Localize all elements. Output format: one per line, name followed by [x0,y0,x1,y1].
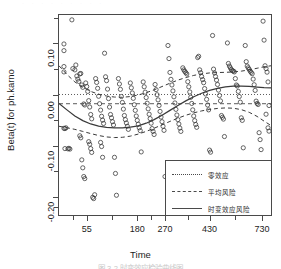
data-point [141,80,145,84]
x-tick-label: 270 [145,224,185,234]
data-point [80,158,84,162]
data-point [90,117,94,121]
data-point [225,41,229,45]
data-point [215,82,219,86]
data-point [131,96,135,100]
data-point [70,18,74,22]
data-point [253,88,257,92]
top-bleed-text: · · · · · · · · · [22,0,172,7]
x-tick [210,216,211,221]
legend-label-2: 时变效应风险 [208,204,250,214]
data-point [256,102,260,106]
data-point [240,118,244,122]
data-point [128,81,132,85]
data-point [146,107,150,111]
data-point [74,63,78,67]
data-point [87,140,91,144]
data-point [176,118,180,122]
data-point [62,64,66,68]
data-point [192,114,196,118]
data-point [236,89,240,93]
data-point [187,85,191,89]
x-tick [137,216,138,221]
data-point [261,19,265,23]
data-point [259,148,263,152]
x-tick-label: 730 [242,224,281,234]
x-tick-minor [188,216,189,220]
legend-key-solid-icon [172,208,202,211]
data-point [210,33,214,37]
data-point [119,94,123,98]
data-point [116,76,120,80]
x-tick [262,216,263,221]
data-point [99,108,103,112]
data-point [148,116,152,120]
data-point [251,77,255,81]
y-tick-label: -0.20 [46,195,56,229]
data-point [203,86,207,90]
data-point [170,83,174,87]
fitted-curve-group [59,86,271,128]
data-point [237,94,241,98]
data-point [158,109,162,113]
series-0-curve [59,86,271,128]
legend-key-dashed-icon [172,191,202,194]
legend-box: 零效应 平均风险 时变效应风险 [165,160,272,216]
data-point [175,113,179,117]
data-point [188,90,192,94]
x-tick-label: 430 [190,224,230,234]
x-tick [165,216,166,221]
data-point [130,91,134,95]
x-tick-minor [151,216,152,220]
y-tick-label: 0.10 [46,41,56,75]
data-point [173,101,177,105]
data-point [139,150,143,154]
y-tick-label: -0.10 [46,144,56,178]
data-point [258,138,262,142]
data-point [264,112,268,116]
data-point [153,82,157,86]
data-point [198,68,202,72]
data-point [117,82,121,86]
legend-item-0: 零效应 [172,169,268,181]
series-1-curve [59,66,271,98]
x-tick-label: 55 [67,224,107,234]
data-point [233,76,237,80]
data-point [166,43,170,47]
data-point [156,98,160,102]
data-point [145,101,149,105]
data-point [186,80,190,84]
data-point [239,116,243,120]
data-point [129,86,133,90]
data-point [205,97,209,101]
data-point [169,77,173,81]
data-point [266,80,270,84]
data-point [118,87,122,91]
data-point [171,89,175,93]
legend-label-1: 平均风险 [208,187,236,197]
data-point [194,122,198,126]
data-point [112,155,116,159]
data-point [104,79,108,83]
legend-label-0: 零效应 [208,170,229,180]
data-point [89,112,93,116]
data-point [142,85,146,89]
data-point [100,144,104,148]
data-point [147,112,151,116]
data-point [99,140,103,144]
data-point [138,129,142,133]
data-point [262,38,266,42]
legend-key-dotted-icon [172,174,202,177]
figure-container: · · · · · · · · · Beta(t) for ph.karno 0… [0,0,281,269]
x-tick-minor [112,216,113,220]
legend-item-2: 时变效应风险 [172,203,268,215]
data-point [90,150,94,154]
data-point [191,108,195,112]
y-tick-label: 0.00 [46,93,56,127]
reference-lines-group [59,94,271,103]
data-point [113,171,117,175]
data-point [106,96,110,100]
x-tick-minor [73,216,74,220]
legend-item-1: 平均风险 [172,186,268,198]
data-point [197,54,201,58]
